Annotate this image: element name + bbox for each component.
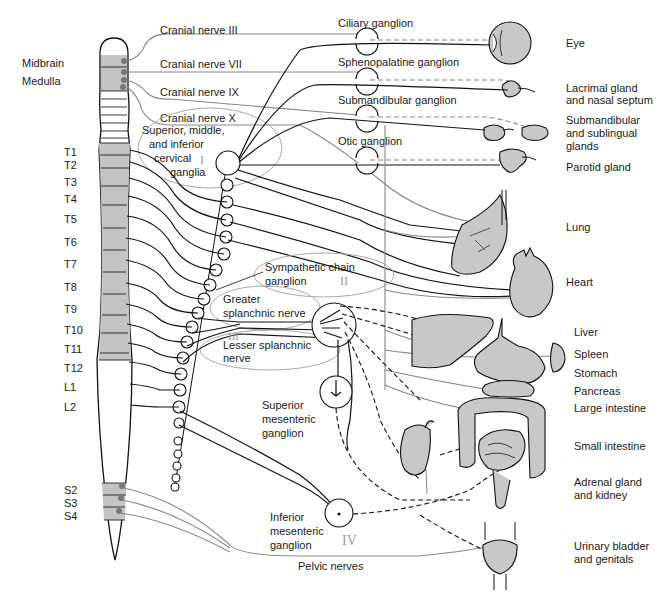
lung-icon: [452, 190, 507, 274]
cranial-nerve-ix-label: Cranial nerve IX: [160, 86, 240, 98]
inferior-mesenteric-ganglion: Inferior mesenteric ganglion IV: [270, 499, 357, 551]
cervical-ganglia-label-line4: ganglia: [170, 166, 206, 178]
submandibular-ganglion-label: Submandibular ganglion: [338, 94, 457, 106]
heart-icon: [510, 248, 553, 317]
segment-label: T10: [64, 324, 83, 336]
superior-mesenteric-label-line2: mesenteric: [262, 413, 316, 425]
segment-label: T12: [64, 362, 83, 374]
spinal-nerves: [126, 150, 227, 407]
pelvic-nerves-label: Pelvic nerves: [298, 560, 364, 572]
stomach-label: Stomach: [574, 367, 617, 379]
segment-label: L2: [64, 401, 76, 413]
organ-labels: Lung Heart Liver Spleen Stomach Pancreas…: [566, 221, 650, 565]
spinal-segment-labels: T1 T2 T3 T4 T5 T6 T7 T8 T9 T10 T11 T12 L…: [64, 146, 83, 522]
superior-mesenteric-label-line3: ganglion: [262, 427, 304, 439]
kidney-icon: [401, 421, 435, 494]
parotid-gland-icon: [500, 149, 527, 172]
segment-label: T11: [64, 343, 82, 355]
liver-label: Liver: [574, 326, 598, 338]
submandibular-label-line2: and sublingual: [566, 127, 637, 139]
submandibular-label: Submandibular: [566, 114, 640, 126]
greater-splanchnic-label: Greater: [223, 293, 261, 305]
lumbar-sympathetic-fibers: [179, 411, 335, 510]
submandibular-label-line3: glands: [566, 140, 599, 152]
spinal-cord: [97, 38, 132, 560]
roman-mark-ii: II: [340, 274, 348, 288]
inferior-mesenteric-label-line2: mesenteric: [270, 525, 324, 537]
superior-mesenteric-label: Superior: [262, 399, 304, 411]
small-intestine-icon: [479, 430, 525, 509]
roman-mark-iii: III: [228, 330, 239, 342]
lacrimal-label-line2: and nasal septum: [566, 94, 653, 106]
sympathetic-chain-label: Sympathetic chain: [265, 261, 355, 273]
autonomic-nervous-system-diagram: Midbrain Medulla T1 T2 T3 T4 T5 T6 T7 T8…: [0, 0, 665, 594]
superior-mesenteric-ganglion: Superior mesenteric ganglion: [262, 376, 352, 439]
otic-ganglion-label: Otic ganglion: [338, 135, 402, 147]
cranial-nerve-iii-label: Cranial nerve III: [160, 24, 238, 36]
lung-label: Lung: [566, 221, 590, 233]
lacrimal-gland-icon: [502, 81, 520, 97]
spleen-icon: [551, 343, 566, 372]
submandibular-gland-icon: [484, 125, 505, 140]
head-organ-labels: Eye Lacrimal gland and nasal septum Subm…: [566, 37, 653, 173]
segment-label: T3: [64, 176, 77, 188]
segment-label: T7: [64, 258, 77, 270]
segment-label: T2: [64, 159, 77, 171]
roman-mark-i: I: [200, 153, 204, 167]
segment-label: L1: [64, 381, 76, 393]
parotid-label: Parotid gland: [566, 161, 631, 173]
lesser-splanchnic-label-line2: nerve: [223, 352, 251, 364]
segment-label: T5: [64, 213, 77, 225]
cervical-ganglia-label: Superior, middle,: [142, 124, 225, 136]
large-intestine-label: Large intestine: [574, 402, 646, 414]
pancreas-label: Pancreas: [574, 385, 621, 397]
midbrain-label: Midbrain: [22, 57, 64, 69]
pancreas-icon: [482, 381, 534, 397]
greater-splanchnic-label-line2: splanchnic nerve: [223, 307, 306, 319]
sphenopalatine-ganglion-label: Sphenopalatine ganglion: [338, 56, 459, 68]
segment-label: S4: [64, 510, 77, 522]
adrenal-kidney-label-line2: and kidney: [574, 489, 628, 501]
segment-label: T8: [64, 281, 77, 293]
bladder-label-line2: and genitals: [574, 553, 634, 565]
cervical-ganglion-icon: [216, 151, 240, 175]
inferior-mesenteric-label: Inferior: [270, 511, 305, 523]
bladder-icon: [483, 522, 517, 590]
small-intestine-label: Small intestine: [574, 440, 646, 452]
roman-mark-iv: IV: [342, 533, 357, 548]
segment-label: T1: [64, 146, 77, 158]
lacrimal-label: Lacrimal gland: [566, 82, 638, 94]
medulla-label: Medulla: [22, 75, 61, 87]
bladder-label: Urinary bladder: [574, 540, 650, 552]
head-organs: [484, 22, 548, 172]
ciliary-ganglion-label: Ciliary ganglion: [338, 17, 413, 29]
segment-label: T9: [64, 303, 77, 315]
segment-label: S2: [64, 484, 77, 496]
cranial-nerve-vii-label: Cranial nerve VII: [160, 58, 242, 70]
sublingual-gland-icon: [522, 125, 548, 140]
eye-label: Eye: [566, 37, 585, 49]
segment-label: T4: [64, 193, 77, 205]
adrenal-kidney-label: Adrenal gland: [574, 476, 642, 488]
cervical-ganglia-label-line2: and inferior: [149, 138, 204, 150]
segment-label: T6: [64, 236, 77, 248]
sympathetic-chain-label-line2: ganglion: [265, 275, 307, 287]
spleen-label: Spleen: [574, 348, 608, 360]
inferior-mesenteric-label-line3: ganglion: [270, 539, 312, 551]
cns-labels: Midbrain Medulla: [22, 57, 64, 87]
heart-label: Heart: [566, 276, 593, 288]
segment-label: S3: [64, 497, 77, 509]
